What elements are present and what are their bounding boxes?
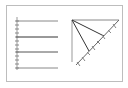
right-triangle bbox=[72, 20, 119, 66]
left-parallel-lines bbox=[15, 17, 58, 70]
geometry-diagram bbox=[0, 0, 128, 88]
hypotenuse-ticks bbox=[77, 24, 116, 66]
